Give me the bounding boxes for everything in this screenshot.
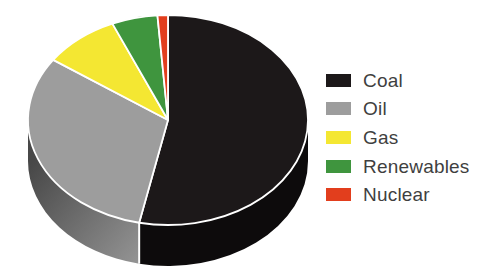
- legend-swatch-renewables: [326, 160, 351, 173]
- legend-swatch-gas: [326, 131, 351, 144]
- legend-item: Gas: [326, 123, 470, 152]
- legend-swatch-oil: [326, 102, 351, 115]
- legend-swatch-nuclear: [326, 188, 351, 201]
- legend-swatch-coal: [326, 74, 351, 87]
- legend-label: Gas: [363, 128, 398, 147]
- chart-legend: CoalOilGasRenewablesNuclear: [326, 66, 470, 209]
- legend-label: Oil: [363, 99, 387, 118]
- pie-chart-figure: CoalOilGasRenewablesNuclear: [0, 0, 495, 274]
- legend-item: Renewables: [326, 152, 470, 181]
- legend-label: Renewables: [363, 157, 470, 176]
- legend-item: Nuclear: [326, 180, 470, 209]
- legend-item: Oil: [326, 95, 470, 124]
- legend-label: Coal: [363, 71, 403, 90]
- legend-label: Nuclear: [363, 185, 430, 204]
- legend-item: Coal: [326, 66, 470, 95]
